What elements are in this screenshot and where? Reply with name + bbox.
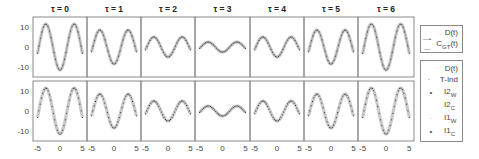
estimate-point	[312, 101, 313, 102]
x-tick-label: -5	[251, 144, 259, 153]
estimate-point	[279, 119, 280, 120]
estimate-point	[107, 112, 108, 113]
true-signal-band	[255, 37, 300, 57]
x-tick-label: 0	[275, 144, 280, 153]
estimate-point	[235, 106, 236, 107]
estimate-point	[101, 95, 102, 96]
estimate-point	[131, 97, 132, 98]
estimate-point	[374, 94, 375, 95]
estimate-point	[276, 120, 277, 121]
estimate-point	[390, 125, 391, 126]
estimate-point	[54, 119, 55, 120]
estimate-point	[295, 105, 296, 106]
estimate-point	[365, 104, 366, 105]
estimate-point	[150, 103, 151, 104]
estimate-point	[218, 114, 219, 115]
estimate-point	[167, 120, 168, 121]
legend-entry-i2w: • I2W	[421, 86, 462, 99]
estimate-point	[407, 110, 408, 111]
true-signal-band	[146, 37, 191, 57]
estimate-point	[51, 106, 52, 107]
panel-frame	[141, 81, 195, 141]
estimate-point	[222, 115, 223, 116]
panel-bottom-tau-0	[33, 81, 87, 141]
y-tick-label: 0	[25, 107, 30, 116]
estimate-point	[116, 125, 117, 126]
estimate-point	[125, 95, 126, 96]
x-tick-label: -5	[359, 144, 367, 153]
estimate-point	[369, 89, 370, 90]
estimate-point	[204, 107, 205, 108]
panel-frame	[87, 81, 141, 141]
estimate-point	[152, 101, 153, 102]
estimate-point	[41, 98, 42, 99]
estimate-point	[113, 127, 114, 128]
estimate-point	[294, 103, 295, 104]
estimate-point	[217, 112, 218, 113]
panel-top-tau-4	[250, 17, 304, 77]
estimate-point	[318, 95, 319, 96]
x-tick-label: -5	[305, 144, 313, 153]
x-tick-label: -5	[142, 144, 150, 153]
estimate-point	[230, 109, 231, 110]
estimate-point	[67, 106, 68, 107]
estimate-point	[241, 108, 242, 109]
estimate-point	[287, 103, 288, 104]
estimate-point	[263, 101, 264, 102]
estimate-point	[163, 117, 164, 118]
estimate-point	[264, 102, 265, 103]
estimate-point	[186, 105, 187, 106]
estimate-point	[321, 102, 322, 103]
estimate-point	[223, 115, 224, 116]
true-signal-band	[200, 106, 246, 116]
estimate-point	[398, 90, 399, 91]
estimate-point	[406, 104, 407, 105]
chart-figure: 100-10τ = 0τ = 1τ = 2τ = 3τ = 4τ = 5τ = …	[0, 0, 479, 159]
estimate-point	[284, 108, 285, 109]
estimate-point	[270, 111, 271, 112]
estimate-point	[59, 133, 60, 134]
x-tick-label: 0	[112, 144, 117, 153]
estimate-point	[275, 120, 276, 121]
estimate-point	[234, 106, 235, 107]
estimate-point	[98, 95, 99, 96]
estimate-point	[71, 90, 72, 91]
estimate-point	[401, 88, 402, 89]
estimate-point	[227, 112, 228, 113]
estimate-point	[199, 112, 200, 113]
estimate-point	[350, 105, 351, 106]
estimate-point	[146, 110, 147, 111]
estimate-point	[267, 106, 268, 107]
x-tick-label: 5	[351, 144, 356, 153]
estimate-point	[352, 110, 353, 111]
panel-top-tau-3	[195, 17, 250, 77]
estimate-point	[91, 115, 92, 116]
estimate-point	[372, 88, 373, 89]
estimate-point	[324, 112, 325, 113]
estimate-point	[66, 113, 67, 114]
panel-bottom-tau-4	[250, 81, 304, 141]
estimate-point	[179, 102, 180, 103]
estimate-point	[257, 107, 258, 108]
panel-title: τ = 4	[268, 4, 286, 14]
estimate-point	[177, 106, 178, 107]
true-signal-band	[255, 101, 300, 121]
legend-bottom-dt-label: D(t)	[421, 64, 462, 74]
true-signal-band	[38, 88, 83, 134]
estimate-point	[166, 120, 167, 121]
estimate-point	[338, 107, 339, 108]
estimate-point	[326, 121, 327, 122]
estimate-point	[149, 105, 150, 106]
estimate-point	[53, 113, 54, 114]
estimate-point	[115, 127, 116, 128]
estimate-point	[202, 109, 203, 110]
x-tick-label: 5	[80, 144, 85, 153]
estimate-point	[62, 130, 63, 131]
true-signal-band	[363, 24, 410, 70]
estimate-point	[381, 125, 382, 126]
panel-bottom-tau-5	[304, 81, 358, 141]
estimate-point	[215, 111, 216, 112]
estimate-point	[78, 98, 79, 99]
estimate-point	[330, 127, 331, 128]
legend-label-i1w: I1W	[441, 113, 458, 124]
